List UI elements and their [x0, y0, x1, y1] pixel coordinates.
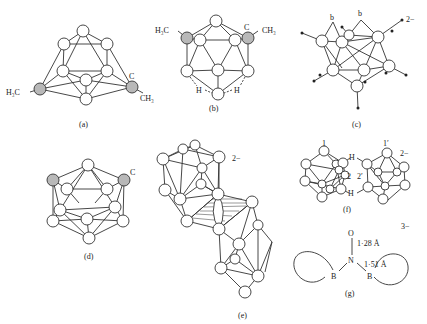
panel-g-label-o: O — [348, 229, 354, 238]
panel-e-structure — [157, 140, 272, 298]
panel-f-structure — [300, 146, 410, 204]
panel-c-label-b2: b — [358, 9, 362, 18]
panel-b-label-h-left: H — [196, 86, 202, 95]
panel-b-label-c: C — [244, 23, 249, 32]
panel-e-caption: (e) — [238, 311, 247, 320]
panel-c-structure — [301, 19, 408, 110]
carbon-atom — [126, 81, 138, 93]
panel-f-label-1: 1 — [322, 139, 326, 148]
panel-e-charge: 2− — [232, 154, 241, 163]
panel-g-label-b-left: B — [331, 272, 336, 281]
panel-a-label-ch3: CH₃ — [140, 94, 154, 103]
panel-c-label-b1: b — [330, 13, 334, 22]
panel-f-label-h-top: H — [349, 153, 355, 162]
panel-g-label-b-right: B — [367, 272, 372, 281]
panel-g-caption: (g) — [345, 289, 355, 298]
panel-d-label-c: C — [130, 168, 135, 177]
panel-g-label-no-distance: 1·28 Å — [357, 239, 380, 248]
panel-b-caption: (b) — [209, 104, 219, 113]
panel-c-charge: 2− — [406, 15, 415, 24]
panel-f-charge: 2− — [400, 149, 409, 158]
panel-g-label-n: N — [348, 256, 354, 265]
carbon-atom — [242, 32, 254, 44]
panel-g-label-nb-distance: 1·51 Å — [364, 260, 387, 269]
panel-c-caption: (c) — [352, 120, 361, 129]
carbon-atom — [34, 83, 46, 95]
panel-a-label-c: C — [129, 72, 134, 81]
panel-f-caption: (f) — [343, 205, 351, 214]
panel-f-label-h-bottom: H — [348, 189, 354, 198]
carbon-atom — [47, 174, 59, 186]
panel-f-label-1-prime: 1′ — [383, 139, 389, 148]
panel-f-label-2-prime: 2′ — [357, 172, 363, 181]
panel-b-label-h3c: H₃C — [155, 26, 169, 35]
carbon-atom — [118, 174, 130, 186]
panel-f-label-2: 2 — [347, 172, 351, 181]
carbon-atom — [181, 32, 193, 44]
panel-b-label-h-right: H — [234, 86, 240, 95]
panel-a-label-h3c: H₃C — [6, 88, 20, 97]
panel-d-structure — [47, 159, 130, 244]
panel-g-charge: 3− — [401, 222, 410, 231]
panel-a-caption: (a) — [79, 120, 88, 129]
panel-d-caption: (d) — [84, 252, 94, 261]
panel-a-structure — [30, 25, 143, 105]
panel-b-label-ch3: CH₃ — [262, 26, 276, 35]
borane-figure: H₃C C CH₃ (a) H₃C C CH₃ H — [0, 0, 427, 324]
